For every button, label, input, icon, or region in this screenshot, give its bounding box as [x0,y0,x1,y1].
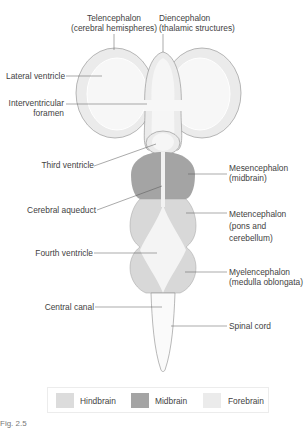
interventricular-title: Interventricular [0,98,64,108]
legend-swatch-midbrain [131,393,149,408]
figure-caption: Fig. 2.5 [0,419,27,428]
legend-swatch-hindbrain [56,393,74,408]
central-canal-label: Central canal [0,302,94,312]
myelencephalon-title: Myelencephalon [229,267,303,277]
diencephalon-label: Diencephalon (thalamic structures) [159,13,235,33]
mesencephalon-label: Mesencephalon (midbrain) [229,163,288,183]
spinal-cord-shape [151,293,175,372]
telencephalon-subtitle: (cerebral hemispheres) [66,23,162,33]
metencephalon-subtitle-1: (pons and [229,220,286,232]
legend-label-hindbrain: Hindbrain [80,396,116,406]
myelencephalon-label: Myelencephalon (medulla oblongata) [229,267,303,287]
interventricular-foramen-label: Interventricular foramen [0,98,64,118]
spinal-cord-label: Spinal cord [229,321,271,331]
mesencephalon-subtitle: (midbrain) [229,173,288,183]
legend-swatch-forebrain [203,393,221,408]
telencephalon-title: Telencephalon [66,13,162,23]
metencephalon-title: Metencephalon [229,208,286,220]
legend-label-midbrain: Midbrain [155,396,187,406]
legend-label-forebrain: Forebrain [228,396,264,406]
myelencephalon-subtitle: (medulla oblongata) [229,277,303,287]
lateral-ventricle-label: Lateral ventricle [6,71,65,81]
legend: Hindbrain Midbrain Forebrain [47,387,269,413]
metencephalon-label: Metencephalon (pons and cerebellum) [229,208,286,244]
metencephalon-subtitle-2: cerebellum) [229,232,286,244]
fourth-ventricle-label: Fourth ventricle [0,248,93,258]
diencephalon-title: Diencephalon [159,13,235,23]
foramen-title: foramen [0,108,64,118]
third-ventricle-label: Third ventricle [0,160,94,170]
telencephalon-label: Telencephalon (cerebral hemispheres) [66,13,162,33]
cerebral-aqueduct-label: Cerebral aqueduct [0,205,96,215]
mesencephalon-title: Mesencephalon [229,163,288,173]
diencephalon-subtitle: (thalamic structures) [159,23,235,33]
